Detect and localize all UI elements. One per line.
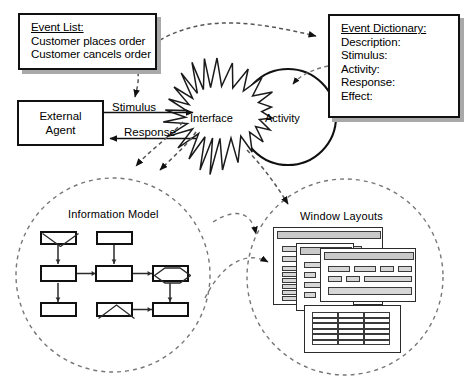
external-agent-label: Agent [45, 123, 75, 137]
supertype-triangle-icon [98, 304, 135, 319]
event-dictionary-field: Description: [341, 36, 458, 50]
entity-mid-right [152, 265, 189, 282]
grid-cell [312, 340, 338, 346]
external-agent-label: External [39, 109, 81, 123]
entity-bottom-right [152, 302, 189, 317]
event-dictionary-note: Event Dictionary: Description: Stimulus:… [328, 14, 460, 118]
window-upper-right-field [364, 276, 412, 282]
activity-label: Activity [265, 112, 300, 124]
event-list-header: Event List: [31, 21, 155, 35]
event-dictionary-field: Stimulus: [341, 49, 458, 63]
interface-label: Interface [190, 112, 233, 124]
window-middle-field [304, 272, 316, 278]
window-middle-field [304, 292, 316, 298]
associative-diamond-icon [154, 267, 191, 284]
window-upper-right-field [346, 276, 360, 282]
entity-top-left [40, 231, 77, 245]
window-layouts-label: Window Layouts [300, 210, 383, 222]
diagram-canvas: Event List: Customer places order Custom… [0, 0, 468, 388]
event-list-note: Event List: Customer places order Custom… [18, 13, 157, 70]
window-upper-right-field [328, 266, 350, 272]
window-front [304, 305, 401, 353]
window-upper-right-field [354, 266, 376, 272]
event-dictionary-header: Event Dictionary: [341, 22, 458, 36]
window-upper-right-field [398, 266, 412, 272]
window-upper-right-field [328, 287, 412, 295]
eventlist-to-stimulus-arrow [135, 72, 138, 97]
window-back-title-bar [277, 231, 381, 239]
information-model-label: Information Model [68, 208, 159, 220]
event-list-item: Customer cancels order [31, 48, 155, 62]
entity-bottom-mid [96, 302, 133, 317]
window-upper-right-title-bar [324, 252, 414, 260]
eventlist-to-dictionary-arrow [160, 23, 316, 40]
window-upper-right-field [380, 266, 394, 272]
entity-mid-left [40, 265, 77, 282]
window-upper-right-field [328, 276, 342, 282]
entity-bottom-left [40, 302, 77, 317]
upper-right-to-window-layouts-arrow [213, 213, 256, 234]
event-dictionary-field: Activity: [341, 63, 458, 77]
stimulus-label: Stimulus [112, 101, 156, 113]
event-dictionary-field: Effect: [341, 90, 458, 104]
window-upper-right [320, 248, 416, 302]
information-model-to-window-layouts-arrow [205, 258, 268, 298]
supertype-triangle-icon [42, 233, 79, 247]
entity-mid-center [95, 265, 133, 282]
entity-top-mid [96, 231, 133, 245]
event-list-item: Customer places order [31, 35, 155, 49]
grid-cell [338, 340, 364, 346]
response-label: Response [124, 126, 176, 138]
grid-cell [364, 340, 390, 346]
external-agent-box: External Agent [17, 100, 104, 146]
event-dictionary-field: Response: [341, 76, 458, 90]
